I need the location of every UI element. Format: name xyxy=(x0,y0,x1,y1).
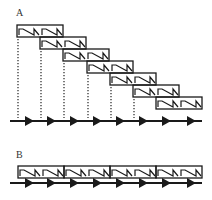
block-outline xyxy=(87,61,133,73)
block-outline xyxy=(156,97,202,109)
sawtooth-block xyxy=(110,166,156,178)
arrowhead-icon xyxy=(25,116,34,126)
ramp xyxy=(158,101,178,107)
ramp xyxy=(135,77,155,83)
arrowhead-icon xyxy=(47,116,56,126)
ramp xyxy=(181,170,201,176)
arrowhead-icon xyxy=(93,178,102,188)
ramp xyxy=(65,53,85,59)
ramp xyxy=(43,170,63,176)
block-outline xyxy=(63,49,109,61)
arrowhead-icon xyxy=(47,178,56,188)
ramp xyxy=(89,65,109,71)
arrowhead-icon xyxy=(139,178,148,188)
panel-a xyxy=(10,25,202,126)
ramp xyxy=(66,170,86,176)
block-outline xyxy=(133,85,179,97)
ramp xyxy=(112,170,132,176)
sawtooth-block xyxy=(156,97,202,109)
block-outline xyxy=(17,25,63,37)
block-outline xyxy=(156,166,202,178)
arrowhead-icon xyxy=(162,116,171,126)
arrowhead-icon xyxy=(162,178,171,188)
block-outline xyxy=(64,166,110,178)
ramp xyxy=(158,170,178,176)
sawtooth-block xyxy=(17,25,63,37)
sawtooth-block xyxy=(40,37,86,49)
sawtooth-block xyxy=(133,85,179,97)
sawtooth-block xyxy=(156,166,202,178)
ramp xyxy=(89,170,109,176)
sawtooth-block xyxy=(63,49,109,61)
arrowhead-icon xyxy=(139,116,148,126)
ramp xyxy=(112,77,132,83)
ramp xyxy=(19,29,39,35)
arrowhead-icon xyxy=(93,116,102,126)
arrowhead-icon xyxy=(70,178,79,188)
ramp xyxy=(112,65,132,71)
sawtooth-block xyxy=(64,166,110,178)
sawtooth-block xyxy=(110,73,156,85)
ramp xyxy=(42,41,62,47)
arrowhead-icon xyxy=(187,116,196,126)
ramp xyxy=(65,41,85,47)
arrowhead-icon xyxy=(116,178,125,188)
ramp xyxy=(181,101,201,107)
ramp xyxy=(88,53,108,59)
block-outline xyxy=(110,166,156,178)
sawtooth-block xyxy=(18,166,64,178)
ramp xyxy=(158,89,178,95)
arrowhead-icon xyxy=(70,116,79,126)
arrowhead-icon xyxy=(116,116,125,126)
staircase-diagram xyxy=(0,0,212,200)
ramp xyxy=(20,170,40,176)
block-outline xyxy=(110,73,156,85)
ramp xyxy=(135,170,155,176)
panel-b xyxy=(10,166,202,188)
arrowhead-icon xyxy=(187,178,196,188)
block-outline xyxy=(40,37,86,49)
sawtooth-block xyxy=(87,61,133,73)
block-outline xyxy=(18,166,64,178)
ramp xyxy=(135,89,155,95)
arrowhead-icon xyxy=(25,178,34,188)
ramp xyxy=(42,29,62,35)
